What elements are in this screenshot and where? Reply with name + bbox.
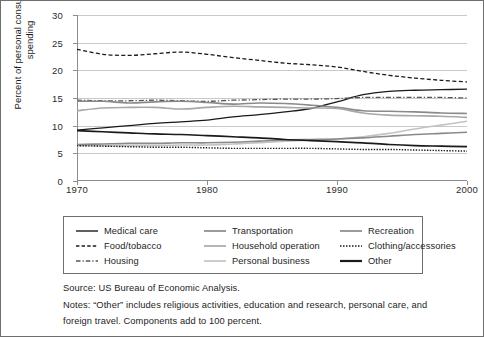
legend-label: Medical care: [104, 226, 158, 236]
y-axis-tick-labels: 051015202530: [1, 15, 73, 181]
legend-grid: Medical careTransportationRecreationFood…: [64, 217, 422, 273]
legend-item[interactable]: Other: [340, 256, 456, 266]
legend-label: Other: [368, 256, 392, 266]
legend-label: Housing: [104, 256, 139, 266]
y-tick-label: 5: [58, 148, 63, 159]
y-tick-label: 25: [52, 37, 63, 48]
y-tick-label: 30: [52, 10, 63, 21]
legend-label: Clothing/accessories: [368, 241, 456, 251]
series-line: [77, 89, 467, 130]
chart-figure: Percent of personal consumption spending…: [0, 0, 484, 337]
legend-swatch-icon: [340, 241, 362, 251]
series-line: [77, 131, 467, 147]
legend-swatch-icon: [76, 226, 98, 236]
legend-swatch-icon: [204, 226, 226, 236]
series-line: [77, 146, 467, 152]
x-tick-label: 1980: [196, 184, 218, 195]
chart-legend: Medical careTransportationRecreationFood…: [63, 216, 423, 274]
series-line: [77, 97, 467, 101]
legend-item[interactable]: Medical care: [76, 226, 204, 236]
y-tick-label: 10: [52, 120, 63, 131]
legend-swatch-icon: [76, 256, 98, 266]
legend-label: Personal business: [232, 256, 310, 266]
legend-swatch-icon: [204, 256, 226, 266]
legend-item[interactable]: Housing: [76, 256, 204, 266]
notes-line-1: Notes: “Other” includes religious activi…: [63, 299, 463, 312]
plot-area: [77, 15, 467, 181]
y-tick-label: 15: [52, 93, 63, 104]
x-tick-label: 2000: [456, 184, 478, 195]
legend-swatch-icon: [340, 256, 362, 266]
legend-item[interactable]: Recreation: [340, 226, 456, 236]
legend-label: Food/tobacco: [104, 241, 162, 251]
legend-swatch-icon: [340, 226, 362, 236]
y-tick-label: 0: [58, 176, 63, 187]
legend-item[interactable]: Transportation: [204, 226, 340, 236]
notes-line-2: foreign travel. Components add to 100 pe…: [63, 315, 463, 328]
source-line: Source: US Bureau of Economic Analysis.: [63, 282, 463, 295]
figure-notes: Source: US Bureau of Economic Analysis. …: [63, 282, 463, 332]
series-lines: [77, 15, 467, 181]
legend-swatch-icon: [76, 241, 98, 251]
x-tick-label: 1970: [66, 184, 88, 195]
legend-item[interactable]: Food/tobacco: [76, 241, 204, 251]
legend-label: Household operation: [232, 241, 320, 251]
legend-item[interactable]: Personal business: [204, 256, 340, 266]
series-line: [77, 49, 467, 82]
legend-swatch-icon: [204, 241, 226, 251]
legend-label: Transportation: [232, 226, 293, 236]
legend-item[interactable]: Clothing/accessories: [340, 241, 456, 251]
legend-label: Recreation: [368, 226, 414, 236]
legend-item[interactable]: Household operation: [204, 241, 340, 251]
x-tick-label: 1990: [326, 184, 348, 195]
y-tick-label: 20: [52, 65, 63, 76]
x-axis-tick-labels: 1970198019902000: [77, 184, 467, 198]
